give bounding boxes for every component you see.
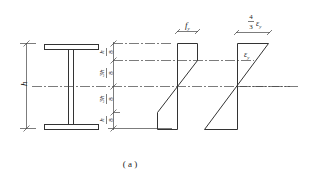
svg-text:3h: 3h: [98, 95, 106, 104]
figure-caption: ( a ): [123, 159, 138, 169]
i-section-stress-strain-diagram: h h 8 3h 8 3h 8 h 8 fy: [0, 0, 335, 179]
svg-text:εy: εy: [256, 19, 262, 29]
svg-text:8: 8: [107, 71, 115, 75]
segment-label-2: 3h 8: [98, 68, 115, 78]
stress-label: fy: [185, 20, 191, 31]
top-flange: [45, 45, 99, 50]
svg-text:8: 8: [107, 97, 115, 101]
strain-diagram: [205, 30, 291, 130]
i-beam-section: [45, 45, 99, 130]
segment-label-1: h 8: [98, 48, 115, 56]
svg-text:3: 3: [249, 23, 253, 31]
svg-text:8: 8: [107, 118, 115, 122]
svg-text:3h: 3h: [98, 69, 106, 78]
bottom-flange: [45, 125, 99, 130]
strain-yield-label: εy: [244, 50, 250, 60]
svg-text:h: h: [98, 50, 106, 54]
svg-text:h: h: [98, 118, 106, 122]
strain-top-label: 4 3 εy: [248, 13, 262, 31]
svg-text:4: 4: [249, 13, 253, 21]
height-label: h: [19, 81, 29, 86]
svg-text:8: 8: [107, 50, 115, 54]
stress-diagram: [158, 29, 201, 130]
segment-label-4: h 8: [98, 116, 115, 124]
segment-label-3: 3h 8: [98, 94, 115, 104]
